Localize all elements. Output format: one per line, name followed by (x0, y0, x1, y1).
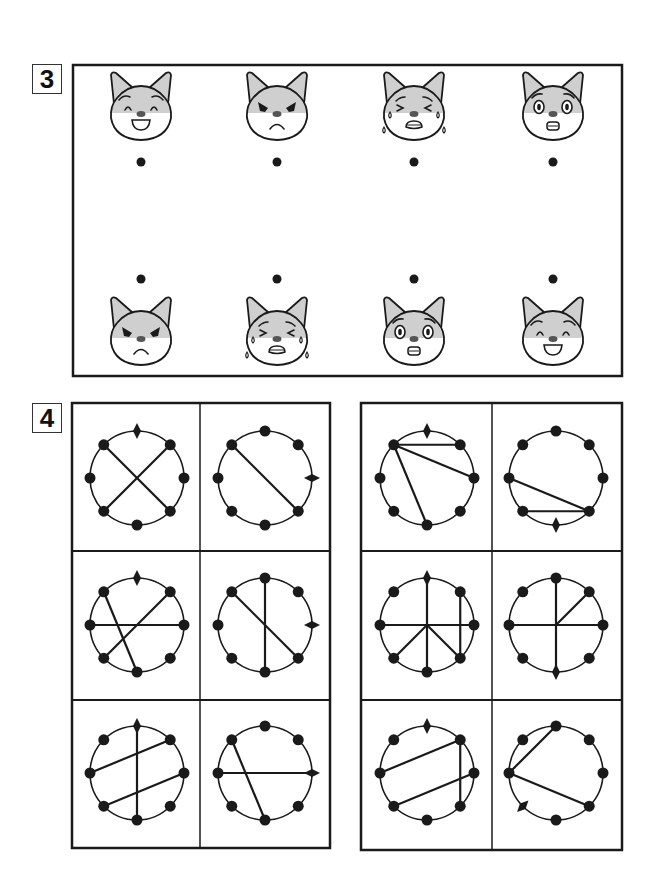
bottom-connect-dot-2[interactable] (273, 275, 282, 284)
nose (410, 336, 419, 342)
circle-pattern-cell-6[interactable] (213, 721, 321, 826)
fox-face-happy[interactable] (106, 72, 176, 140)
point-dot (469, 768, 480, 779)
point-dot (504, 473, 515, 484)
point-dot (455, 506, 466, 517)
top-connect-dot-3[interactable] (410, 158, 419, 167)
point-dot (455, 734, 466, 745)
point-dot (226, 734, 237, 745)
teardrop (306, 352, 309, 358)
point-dot (584, 506, 595, 517)
point-dot (388, 734, 399, 745)
start-diamond-icon (304, 769, 320, 777)
point-dot (85, 768, 96, 779)
point-dot (98, 439, 109, 450)
connecting-line (509, 773, 589, 806)
teardrop (252, 337, 255, 343)
point-dot (551, 426, 562, 437)
teardrop (437, 112, 440, 118)
point-dot (165, 653, 176, 664)
point-dot (598, 473, 609, 484)
top-connect-dot-4[interactable] (549, 158, 558, 167)
point-dot (517, 653, 528, 664)
point-dot (165, 439, 176, 450)
circle-pattern-cell-5[interactable] (85, 718, 190, 826)
point-dot (179, 620, 190, 631)
top-connect-dot-1[interactable] (137, 158, 146, 167)
point-dot (165, 506, 176, 517)
circle-pattern-cell-6[interactable] (504, 721, 609, 826)
teardrop (300, 337, 303, 343)
circle-pattern-cell-3[interactable] (85, 570, 190, 678)
point-dot (504, 620, 515, 631)
point-dot (260, 520, 271, 531)
point-dot (455, 439, 466, 450)
teardrop (443, 127, 446, 133)
point-dot (132, 667, 143, 678)
point-dot (226, 586, 237, 597)
start-diamond-icon (133, 423, 141, 439)
circle-pattern-cell-4[interactable] (504, 573, 609, 681)
nose (410, 111, 419, 117)
top-connect-dot-2[interactable] (273, 158, 282, 167)
point-dot (260, 815, 271, 826)
point-dot (422, 667, 433, 678)
point-dot (422, 815, 433, 826)
bottom-connect-dot-3[interactable] (410, 275, 419, 284)
fox-face-crying[interactable] (242, 297, 312, 365)
point-dot (98, 734, 109, 745)
fox-face-angry[interactable] (106, 297, 176, 365)
point-dot (98, 801, 109, 812)
left-grid (72, 403, 330, 848)
open-smile (544, 345, 562, 355)
point-dot (388, 586, 399, 597)
point-dot (598, 768, 609, 779)
point-dot (469, 473, 480, 484)
start-diamond-icon (552, 664, 560, 680)
point-dot (179, 473, 190, 484)
point-dot (213, 473, 224, 484)
nose (549, 336, 558, 342)
point-dot (517, 439, 528, 450)
fox-face-surprised[interactable] (518, 72, 588, 140)
bottom-connect-dot-1[interactable] (137, 275, 146, 284)
point-dot (293, 586, 304, 597)
point-dot (375, 620, 386, 631)
connecting-line (556, 592, 589, 625)
circle-pattern-cell-2[interactable] (213, 426, 321, 531)
start-diamond-icon (133, 570, 141, 586)
circle-pattern-cell-1[interactable] (85, 423, 190, 531)
point-dot (469, 620, 480, 631)
point-dot (388, 506, 399, 517)
circle-pattern-cell-4[interactable] (213, 573, 321, 678)
teardrop (246, 352, 249, 358)
start-diamond-icon (423, 718, 431, 734)
point-dot (260, 426, 271, 437)
circle-pattern-cell-1[interactable] (375, 423, 480, 531)
start-diamond-icon (304, 474, 320, 482)
point-dot (85, 620, 96, 631)
point-dot (584, 653, 595, 664)
section-3-face-matching (73, 65, 622, 376)
fox-face-surprised[interactable] (379, 297, 449, 365)
open-smile (132, 120, 150, 130)
point-dot (293, 734, 304, 745)
start-diamond-icon (133, 718, 141, 734)
fox-face-happy[interactable] (518, 297, 588, 365)
nose (273, 336, 282, 342)
teardrop (389, 112, 392, 118)
circle-pattern-cell-3[interactable] (375, 570, 480, 678)
fox-face-crying[interactable] (379, 72, 449, 140)
fox-face-angry[interactable] (242, 72, 312, 140)
point-dot (517, 734, 528, 745)
point-dot (226, 801, 237, 812)
point-dot (388, 439, 399, 450)
point-dot (226, 439, 237, 450)
point-dot (598, 620, 609, 631)
point-dot (455, 586, 466, 597)
nose (549, 111, 558, 117)
circle-pattern-cell-5[interactable] (375, 718, 480, 826)
bottom-connect-dot-4[interactable] (549, 275, 558, 284)
connecting-line (394, 625, 427, 658)
circle-pattern-cell-2[interactable] (504, 426, 609, 534)
